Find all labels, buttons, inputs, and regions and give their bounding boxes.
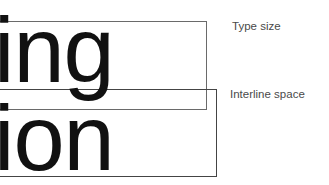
type-size-label: Type size bbox=[232, 20, 281, 32]
sample-word-ion: ion bbox=[0, 92, 114, 184]
interline-space-label: Interline space bbox=[230, 88, 305, 100]
sample-word-ing: ing bbox=[0, 4, 114, 96]
